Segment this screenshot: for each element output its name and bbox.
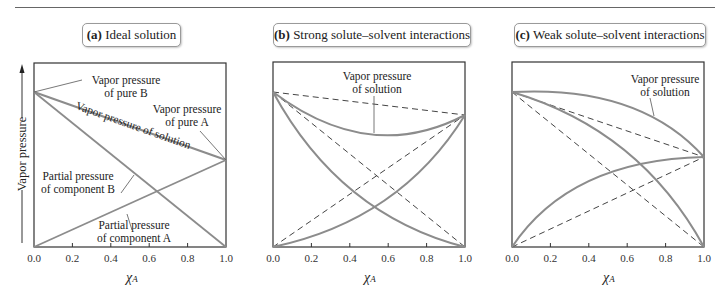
panel-c-xtick: 0.2 — [544, 252, 558, 264]
panel-b-xlabel: χA — [362, 270, 376, 285]
panel-c-plot: Vapor pressure of solution 0.0 0.2 0.4 0… — [505, 62, 711, 285]
panel-c-xtick: 0.4 — [582, 252, 596, 264]
chart-canvas: Vapor pressure Vapor pressure of pure B … — [0, 0, 725, 291]
panel-c-solution-label-2: of solution — [640, 86, 690, 98]
panel-b-solution-curve — [273, 92, 465, 135]
panel-c-xlabel: χA — [601, 270, 615, 285]
y-axis-label: Vapor pressure — [15, 116, 29, 191]
panel-a-pure-b-label-1: Vapor pressure — [92, 74, 161, 87]
arrow-up-icon — [20, 64, 25, 73]
panel-a-pure-a-label-1: Vapor pressure — [153, 103, 222, 116]
panel-a-partial-b-label-1: Partial pressure — [42, 170, 113, 183]
panel-b-xtick: 0.4 — [343, 252, 357, 264]
panel-a-partial-a-label-2: of component A — [97, 232, 172, 245]
panel-a-xtick: 0.8 — [181, 252, 195, 264]
panel-c-xtick: 0.6 — [620, 252, 634, 264]
panel-a-xtick: 0.6 — [142, 252, 156, 264]
panel-a-xtick: 1.0 — [219, 252, 233, 264]
panel-b-plot: Vapor pressure of solution 0.0 0.2 0.4 0… — [266, 62, 472, 285]
panel-a-xtick: 0.0 — [27, 252, 41, 264]
panel-b-xtick: 0.8 — [420, 252, 434, 264]
panel-b-xtick: 0.2 — [305, 252, 319, 264]
panel-a-partial-a-label-1: Partial pressure — [98, 219, 169, 232]
panel-b-xtick: 0.6 — [381, 252, 395, 264]
panel-c-xtick: 0.0 — [505, 252, 519, 264]
panel-a-partial-b-label-2: of component B — [41, 183, 115, 196]
panel-a-pure-b-label-2: of pure B — [104, 87, 148, 100]
panel-c-solution-label-1: Vapor pressure — [631, 73, 700, 86]
panel-b-xtick: 1.0 — [458, 252, 472, 264]
panel-c-xtick: 1.0 — [697, 252, 711, 264]
panel-b-xtick: 0.0 — [266, 252, 280, 264]
panel-a-xtick: 0.2 — [66, 252, 80, 264]
panel-a-xlabel: χA — [124, 270, 138, 285]
panel-a-pure-a-label-2: of pure A — [165, 116, 209, 129]
panel-a-plot: Vapor pressure of pure B Vapor pressure … — [27, 63, 233, 285]
y-axis-label-group: Vapor pressure — [15, 64, 29, 243]
panel-a-xtick: 0.4 — [104, 252, 118, 264]
panel-b-solution-label-1: Vapor pressure — [343, 70, 412, 83]
panel-b-solution-label-2: of solution — [352, 83, 402, 95]
panel-c-xtick: 0.8 — [659, 252, 673, 264]
